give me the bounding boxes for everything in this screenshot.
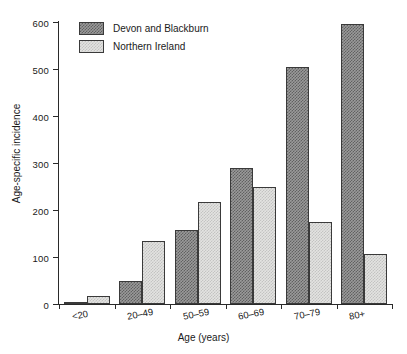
legend-item: Devon and Blackburn	[79, 20, 209, 37]
y-axis-tick-label: 100	[33, 252, 49, 263]
y-axis-tick-label: 500	[33, 64, 49, 75]
x-axis-tick-label: 50–59	[182, 306, 210, 322]
bar-northern-ireland	[142, 241, 165, 304]
bar-devon-and-blackburn	[119, 281, 142, 305]
x-axis-tick	[281, 304, 282, 309]
legend-swatch-icon	[79, 40, 104, 53]
plot-area	[59, 22, 392, 304]
legend-label: Northern Ireland	[113, 41, 185, 52]
y-axis-tick-label: 200	[33, 205, 49, 216]
bar-devon-and-blackburn	[286, 67, 309, 304]
y-axis-tick-label: 600	[33, 17, 49, 28]
bar-northern-ireland	[364, 254, 387, 304]
x-axis-title: Age (years)	[0, 332, 407, 343]
x-axis-tick-label: <20	[71, 308, 89, 322]
x-axis-tick-label: 60–69	[237, 306, 265, 322]
bar-devon-and-blackburn	[341, 24, 364, 304]
x-axis-tick	[392, 304, 393, 309]
y-axis-title: Age-specific incidence	[11, 64, 22, 244]
legend-item: Northern Ireland	[79, 38, 209, 55]
x-axis-tick	[226, 304, 227, 309]
y-axis-tick-label: 0	[44, 299, 49, 310]
x-axis-tick-label: 70–79	[293, 306, 321, 322]
x-axis-tick-label: 20–49	[126, 306, 154, 322]
x-axis-tick-label: 80+	[348, 308, 366, 322]
legend-swatch-icon	[79, 22, 104, 35]
chart-legend: Devon and BlackburnNorthern Ireland	[79, 20, 209, 56]
y-axis-tick-label: 400	[33, 111, 49, 122]
bar-northern-ireland	[253, 187, 276, 304]
bar-northern-ireland	[309, 222, 332, 304]
bar-devon-and-blackburn	[64, 302, 87, 304]
x-axis-tick	[170, 304, 171, 309]
bar-devon-and-blackburn	[175, 230, 198, 304]
legend-label: Devon and Blackburn	[113, 23, 209, 34]
bar-chart: Age-specific incidence Age (years) 01002…	[0, 0, 407, 354]
bar-devon-and-blackburn	[230, 168, 253, 304]
x-axis-tick	[337, 304, 338, 309]
bar-northern-ireland	[87, 296, 110, 304]
y-axis-tick-label: 300	[33, 158, 49, 169]
x-axis-tick	[59, 304, 60, 309]
bar-northern-ireland	[198, 202, 221, 304]
x-axis-tick	[115, 304, 116, 309]
